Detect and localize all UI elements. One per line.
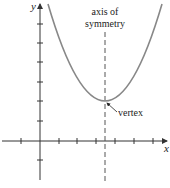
vertex-label: vertex [118, 107, 143, 118]
vertex-pointer-arrow [107, 103, 117, 112]
parabola-diagram: y x axis of symmetry vertex [0, 0, 170, 188]
axis-of-symmetry-label-line2: symmetry [85, 18, 125, 29]
axis-of-symmetry-label-line1: axis of [92, 6, 120, 17]
y-axis-label: y [30, 0, 36, 12]
x-axis-label: x [163, 142, 169, 154]
